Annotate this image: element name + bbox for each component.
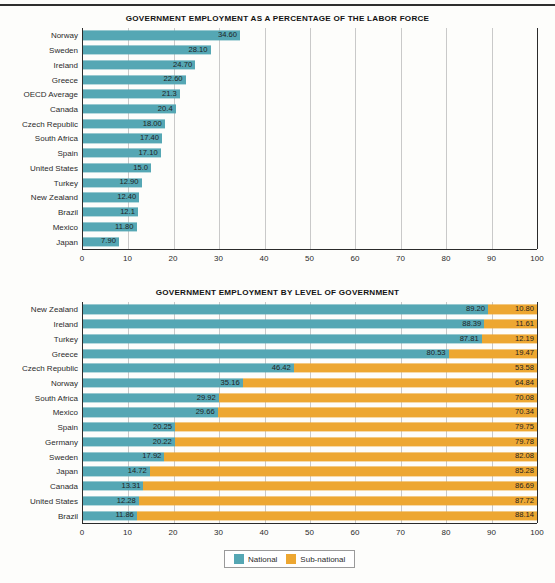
- bar: 12.40: [83, 193, 139, 202]
- bar-value-label: 21.3: [162, 90, 180, 98]
- bar-row: New Zealand89.2010.80: [83, 302, 537, 317]
- category-label: Canada: [50, 105, 78, 114]
- gridline: [537, 28, 538, 249]
- bar-row: Sweden28.10: [83, 43, 537, 58]
- bar-row: Sweden17.9282.08: [83, 449, 537, 464]
- x-axis-tick-label: 30: [214, 254, 223, 263]
- legend-label: National: [248, 555, 277, 564]
- bar-row: Norway35.1664.84: [83, 376, 537, 391]
- legend-color-swatch: [286, 554, 296, 564]
- bar-segment-sub-national: 79.78: [175, 437, 537, 446]
- x-axis-tick-label: 100: [530, 254, 543, 263]
- category-label: New Zealand: [31, 305, 78, 314]
- bar-value-label: 80.53: [427, 350, 449, 358]
- bar-group: 34.60: [83, 31, 537, 40]
- bar-group: 35.1664.84: [83, 378, 537, 387]
- x-axis-tick-label: 60: [351, 528, 360, 537]
- x-axis-tick-label: 50: [305, 528, 314, 537]
- bar-segment-national: 35.16: [83, 378, 243, 387]
- bar-value-label: 17.92: [142, 453, 164, 461]
- bar-segment-national: 17.92: [83, 452, 164, 461]
- x-axis-tick-label: 100: [530, 528, 543, 537]
- x-axis-tick-label: 20: [169, 528, 178, 537]
- bar-row: Czech Republic18.00: [83, 116, 537, 131]
- x-axis-tick-label: 90: [487, 254, 496, 263]
- bar-row: Brazil11.8688.14: [83, 508, 537, 523]
- legend-item[interactable]: Sub-national: [286, 554, 345, 564]
- figure-page: GOVERNMENT EMPLOYMENT AS A PERCENTAGE OF…: [0, 0, 555, 583]
- bar-group: 20.2279.78: [83, 437, 537, 446]
- bar: 18.00: [83, 119, 165, 128]
- bar: 12.90: [83, 178, 142, 187]
- bar: 17.40: [83, 134, 162, 143]
- gridline: [537, 302, 538, 523]
- bar-row: Czech Republic46.4253.58: [83, 361, 537, 376]
- bar-value-label: 19.47: [515, 350, 537, 358]
- bar-row: Japan7.90: [83, 234, 537, 249]
- category-label: Turkey: [54, 334, 78, 343]
- bar: 22.60: [83, 75, 186, 84]
- bar-group: 24.70: [83, 60, 537, 69]
- x-axis-tick-label: 20: [169, 254, 178, 263]
- bar-value-label: 88.14: [515, 512, 537, 520]
- bar-row: Greece80.5319.47: [83, 346, 537, 361]
- x-axis-tick-label: 40: [260, 528, 269, 537]
- bar: 24.70: [83, 60, 195, 69]
- bar-segment-sub-national: 88.14: [137, 511, 537, 520]
- bar-segment-national: 80.53: [83, 349, 449, 358]
- bar-value-label: 15.0: [133, 164, 151, 172]
- bar-rows-bottom: New Zealand89.2010.80Ireland88.3911.61Tu…: [83, 302, 537, 523]
- x-axis-tick-label: 0: [80, 254, 84, 263]
- x-axis-tick-label: 60: [351, 254, 360, 263]
- bar-value-label: 79.78: [515, 438, 537, 446]
- bar-segment-sub-national: 64.84: [243, 378, 537, 387]
- legend-item[interactable]: National: [234, 554, 277, 564]
- bar-group: 29.9270.08: [83, 393, 537, 402]
- bar-value-label: 18.00: [143, 120, 165, 128]
- x-axis-tick-label: 70: [396, 254, 405, 263]
- category-label: South Africa: [35, 134, 78, 143]
- legend-bottom: NationalSub-national: [224, 550, 355, 568]
- bar-row: Canada13.3186.69: [83, 479, 537, 494]
- bar-group: 46.4253.58: [83, 364, 537, 373]
- category-label: Mexico: [53, 222, 78, 231]
- bar-value-label: 14.72: [128, 468, 150, 476]
- x-axis-tick-label: 50: [305, 254, 314, 263]
- x-axis-tick-label: 10: [123, 254, 132, 263]
- bar-row: Turkey12.90: [83, 175, 537, 190]
- plot-area-top: Norway34.60Sweden28.10Ireland24.70Greece…: [82, 28, 537, 250]
- x-axis-tick-label: 80: [442, 254, 451, 263]
- bar-group: 18.00: [83, 119, 537, 128]
- plot-area-bottom: New Zealand89.2010.80Ireland88.3911.61Tu…: [82, 302, 537, 524]
- bar-value-label: 13.31: [121, 482, 143, 490]
- bar-row: New Zealand12.40: [83, 190, 537, 205]
- bar-group: 7.90: [83, 237, 537, 246]
- bar-row: United States12.2887.72: [83, 494, 537, 509]
- bar-value-label: 28.10: [189, 46, 211, 54]
- bar-group: 15.0: [83, 163, 537, 172]
- category-label: Mexico: [53, 408, 78, 417]
- bar-group: 12.2887.72: [83, 496, 537, 505]
- category-label: Greece: [52, 349, 78, 358]
- bar-value-label: 29.92: [197, 394, 219, 402]
- category-label: Sweden: [49, 46, 78, 55]
- category-label: Greece: [52, 75, 78, 84]
- bar-value-label: 46.42: [272, 364, 294, 372]
- bar-value-label: 22.60: [164, 76, 186, 84]
- bar-segment-sub-national: 79.75: [175, 423, 537, 432]
- category-label: Spain: [58, 423, 78, 432]
- bar-value-label: 79.75: [515, 423, 537, 431]
- bar-segment-national: 29.92: [83, 393, 219, 402]
- bar-value-label: 82.08: [515, 453, 537, 461]
- bar-value-label: 70.34: [515, 409, 537, 417]
- category-label: Japan: [56, 237, 78, 246]
- bar-row: OECD Average21.3: [83, 87, 537, 102]
- category-label: Germany: [45, 437, 78, 446]
- chart-top-title: GOVERNMENT EMPLOYMENT AS A PERCENTAGE OF…: [0, 14, 555, 23]
- bar-group: 20.2579.75: [83, 423, 537, 432]
- category-label: United States: [30, 163, 78, 172]
- bar-segment-sub-national: 12.19: [482, 334, 537, 343]
- category-label: Czech Republic: [22, 119, 78, 128]
- bar-value-label: 12.19: [515, 335, 537, 343]
- bar-value-label: 20.25: [153, 423, 175, 431]
